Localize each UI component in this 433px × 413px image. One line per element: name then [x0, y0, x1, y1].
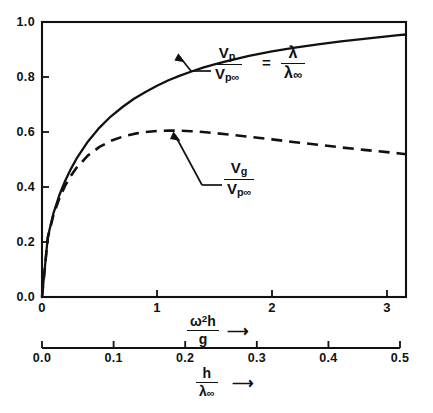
- x-tick-label-3: 3: [376, 301, 398, 314]
- y-tick-label-4: 0.4: [1, 181, 35, 194]
- y-tick-label-1: 1.0: [1, 16, 35, 29]
- y-tick-label-2: 0.8: [1, 71, 35, 84]
- x-tick-label-0: 0: [31, 301, 53, 314]
- x-axis-primary-arrow-icon: ⟶: [227, 322, 249, 340]
- group-velocity-denominator: Vp∞: [224, 180, 254, 199]
- x-tick-label-2: 2: [261, 301, 283, 314]
- x2-tick-label-4: 0.4: [308, 352, 348, 365]
- x-axis-secondary-denominator: λ∞: [196, 383, 218, 400]
- figure-container: 1.0 0.8 0.6 0.4 0.2 0.0 0 1 2 3 0.0 0.1 …: [0, 0, 433, 413]
- phase-velocity-equals: =: [262, 54, 271, 71]
- x-axis-secondary: [42, 341, 400, 348]
- x-axis-secondary-numerator: h: [196, 366, 218, 383]
- phase-velocity-arrowhead: [174, 53, 184, 62]
- wavelength-numerator: λ: [281, 45, 305, 64]
- group-velocity-numerator: Vg: [224, 160, 254, 180]
- y-tick-label-3: 0.6: [1, 126, 35, 139]
- group-velocity-fraction: Vg Vp∞: [224, 160, 254, 198]
- phase-velocity-numerator: Vp: [212, 45, 242, 65]
- x2-tick-label-2: 0.2: [165, 352, 205, 365]
- x-tick-label-1: 1: [146, 301, 168, 314]
- x2-tick-label-5: 0.5: [380, 352, 420, 365]
- group-velocity-arrowhead: [170, 132, 181, 142]
- x-axis-primary-denominator: g: [187, 331, 219, 347]
- x2-tick-label-3: 0.3: [237, 352, 277, 365]
- series-group-velocity: [42, 131, 406, 297]
- phase-velocity-fraction: Vp Vp∞: [212, 45, 242, 83]
- x2-tick-label-0: 0.0: [22, 352, 62, 365]
- wavelength-denominator: λ∞: [281, 64, 305, 83]
- y-tick-label-5: 0.2: [1, 236, 35, 249]
- phase-velocity-denominator: Vp∞: [212, 65, 242, 84]
- x-axis-primary-numerator: ω2h: [187, 314, 219, 331]
- phase-velocity-leader: [179, 56, 211, 71]
- y-tick-label-6: 0.0: [1, 291, 35, 304]
- group-velocity-leader: [175, 135, 222, 185]
- x-axis-primary-title: ω2h g: [187, 314, 219, 346]
- wavelength-fraction: λ λ∞: [281, 45, 305, 82]
- x-axis-secondary-title: h λ∞: [196, 366, 218, 399]
- x2-tick-label-1: 0.1: [94, 352, 134, 365]
- x-axis-secondary-arrow-icon: ⟶: [232, 374, 254, 392]
